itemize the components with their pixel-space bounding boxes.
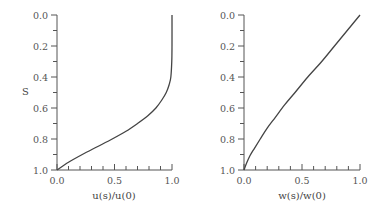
figure: 0.00.20.40.60.81.0 0.00.51.0 S u(s)/u(0)…: [0, 0, 384, 215]
right-x-axis-label: w(s)/w(0): [278, 190, 326, 201]
u-ratio-curve: [57, 15, 172, 170]
left-x-axis-label: u(s)/u(0): [92, 190, 135, 201]
x-tick-label: 1.0: [352, 175, 367, 186]
y-tick-label: 0.0: [220, 10, 235, 21]
y-tick-label: 0.0: [33, 10, 48, 21]
left-x-axis: 0.00.51.0: [49, 164, 179, 186]
x-tick-label: 0.5: [294, 175, 309, 186]
right-chart: 0.00.20.40.60.81.0 0.00.51.0 w(s)/w(0): [220, 10, 368, 202]
x-tick-label: 0.0: [236, 175, 251, 186]
y-tick-label: 0.8: [33, 134, 48, 145]
y-tick-label: 1.0: [33, 165, 48, 176]
right-y-axis: 0.00.20.40.60.81.0: [220, 10, 244, 176]
x-tick-label: 0.5: [107, 175, 122, 186]
y-tick-label: 0.8: [220, 134, 235, 145]
x-tick-label: 1.0: [164, 175, 179, 186]
y-tick-label: 1.0: [220, 165, 235, 176]
y-tick-label: 0.6: [33, 103, 48, 114]
right-x-axis: 0.00.51.0: [236, 164, 367, 186]
y-tick-label: 0.4: [33, 72, 48, 83]
y-tick-label: 0.2: [220, 41, 235, 52]
left-y-axis: 0.00.20.40.60.81.0: [33, 10, 57, 176]
y-tick-label: 0.4: [220, 72, 235, 83]
w-ratio-curve: [244, 15, 360, 170]
y-tick-label: 0.6: [220, 103, 235, 114]
x-tick-label: 0.0: [49, 175, 64, 186]
left-y-axis-label: S: [22, 86, 29, 97]
left-chart: 0.00.20.40.60.81.0 0.00.51.0 S u(s)/u(0): [22, 10, 180, 202]
y-tick-label: 0.2: [33, 41, 48, 52]
